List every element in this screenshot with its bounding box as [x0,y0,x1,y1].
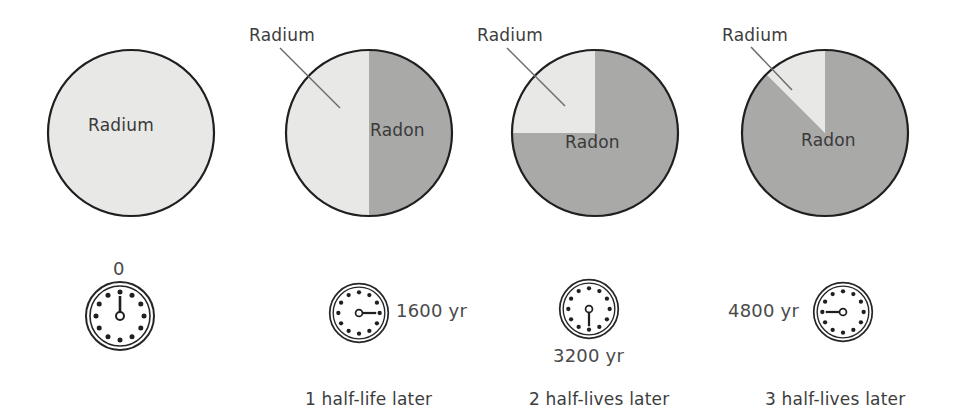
panel-2: Radium Radon [485,0,717,419]
clock-hub-3 [840,309,847,316]
panel-0: Radium [0,0,250,419]
clock-svg-0 [84,280,156,352]
leader-line-3 [747,42,827,112]
leader-line-1 [276,42,366,122]
clock-2 [558,278,620,340]
clock-svg-1 [328,282,390,344]
clock-0 [84,280,156,352]
callout-label-radium-1: Radium [249,25,315,45]
panel-3: Radium Radon [717,0,959,419]
decay-figure: Radium [0,0,959,419]
clock-hub-0 [116,312,124,320]
pie-inner-label-radium-0: Radium [88,115,154,135]
pie-inner-label-radon-1: Radon [370,120,425,140]
clock-hub-2 [586,306,593,313]
pie-inner-label-radon-2: Radon [565,132,620,152]
pie-inner-label-radon-3: Radon [801,130,856,150]
caption-1: 1 half-life later [305,389,432,409]
clock-svg-3 [812,281,874,343]
caption-2: 2 half-lives later [529,389,669,409]
clock-svg-2 [558,278,620,340]
clock-1 [328,282,390,344]
time-label-3: 4800 yr [728,300,799,321]
leader-line-2 [503,42,593,122]
clock-3 [812,281,874,343]
panel-1: Radium Radon [250,0,485,419]
callout-label-radium-3: Radium [722,25,788,45]
clock-hub-1 [356,310,363,317]
time-label-0: 0 [113,258,125,279]
caption-3: 3 half-lives later [765,389,905,409]
time-label-1: 1600 yr [396,300,467,321]
time-label-2: 3200 yr [553,345,624,366]
callout-label-radium-2: Radium [477,25,543,45]
